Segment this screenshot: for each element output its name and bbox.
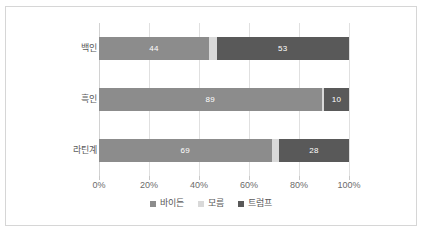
legend-swatch-icon <box>238 201 244 207</box>
legend-swatch-icon <box>198 201 204 207</box>
bar-row: 8910 <box>99 88 349 111</box>
bar-row: 4453 <box>99 37 349 60</box>
legend-item[interactable]: 바이든 <box>150 199 184 208</box>
chart-frame: 백인흑인라틴계 445389106928 0%20%40%60%80%100% … <box>5 6 417 226</box>
bar-row: 6928 <box>99 139 349 162</box>
bar-value-label: 69 <box>181 147 190 155</box>
bar-segment[interactable]: 53 <box>217 37 350 60</box>
bar-segment[interactable]: 44 <box>99 37 209 60</box>
bar-segment[interactable]: 69 <box>99 139 272 162</box>
x-tick-label: 20% <box>129 181 169 190</box>
bar-value-label: 28 <box>309 147 318 155</box>
x-tick-label: 100% <box>329 181 369 190</box>
x-tick-label: 40% <box>179 181 219 190</box>
bar-value-label: 53 <box>278 45 287 53</box>
bar-segment[interactable]: 28 <box>279 139 349 162</box>
bar-value-label: 10 <box>332 96 341 104</box>
bar-value-label: 89 <box>206 96 215 104</box>
x-tick-label: 80% <box>279 181 319 190</box>
bar-segment[interactable] <box>272 139 280 162</box>
legend-item[interactable]: 트럼프 <box>238 199 272 208</box>
category-label: 백인 <box>17 44 97 53</box>
bar-value-label: 44 <box>149 45 158 53</box>
bar-segment[interactable]: 10 <box>324 88 349 111</box>
category-axis: 백인흑인라틴계 <box>11 23 97 176</box>
legend-label: 바이든 <box>160 199 184 208</box>
x-axis: 0%20%40%60%80%100% <box>99 176 349 198</box>
chart-legend: 바이든모름트럼프 <box>6 199 416 208</box>
category-label: 라틴계 <box>17 146 97 155</box>
legend-label: 트럼프 <box>248 199 272 208</box>
legend-item[interactable]: 모름 <box>198 199 224 208</box>
x-tick-label: 0% <box>79 181 119 190</box>
gridline-100 <box>349 23 350 176</box>
plot-area: 445389106928 <box>99 23 349 176</box>
legend-label: 모름 <box>208 199 224 208</box>
legend-swatch-icon <box>150 201 156 207</box>
chart-screenshot: 백인흑인라틴계 445389106928 0%20%40%60%80%100% … <box>0 0 423 233</box>
x-tick-label: 60% <box>229 181 269 190</box>
category-label: 흑인 <box>17 95 97 104</box>
bar-segment[interactable]: 89 <box>99 88 322 111</box>
bar-segment[interactable] <box>209 37 217 60</box>
